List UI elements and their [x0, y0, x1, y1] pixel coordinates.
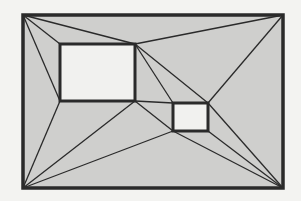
large-hole [60, 44, 135, 101]
small-hole [173, 103, 208, 131]
triangulation-diagram [0, 0, 301, 201]
